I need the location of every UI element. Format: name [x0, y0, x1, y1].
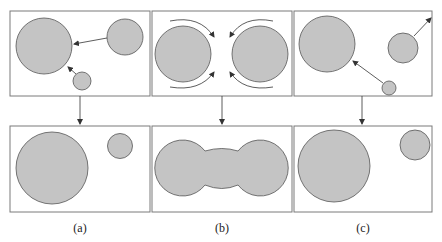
merged-particle	[155, 140, 288, 196]
particle-small	[382, 81, 396, 95]
panel-b-bottom	[152, 126, 292, 212]
panel-c-top	[294, 11, 432, 96]
label-c: (c)	[343, 221, 383, 236]
particle-medium	[400, 130, 430, 160]
label-a: (a)	[60, 221, 100, 236]
diagram-canvas	[0, 0, 442, 242]
particle-large	[16, 18, 72, 74]
particle-medium	[108, 134, 133, 159]
particle-large	[298, 130, 370, 202]
panel-a-bottom	[10, 126, 150, 212]
particle-small	[73, 72, 91, 90]
particle-medium	[107, 19, 143, 55]
particle-right	[232, 26, 288, 82]
particle-medium	[388, 33, 418, 63]
particle-left	[155, 26, 211, 82]
particle-large	[16, 132, 88, 204]
panel-c-bottom	[294, 126, 432, 212]
panel-b-top	[152, 11, 292, 96]
particle-large	[299, 16, 355, 72]
label-b: (b)	[202, 221, 242, 236]
panel-a-top	[10, 11, 150, 96]
